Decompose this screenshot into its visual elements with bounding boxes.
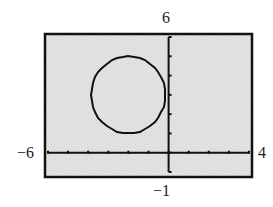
screen-background (45, 34, 252, 177)
xmin-label: −6 (17, 145, 34, 161)
ymax-label: 6 (162, 10, 170, 26)
xmax-label: 4 (258, 145, 266, 161)
graph-screen (0, 0, 273, 207)
ymin-label: −1 (153, 183, 170, 199)
